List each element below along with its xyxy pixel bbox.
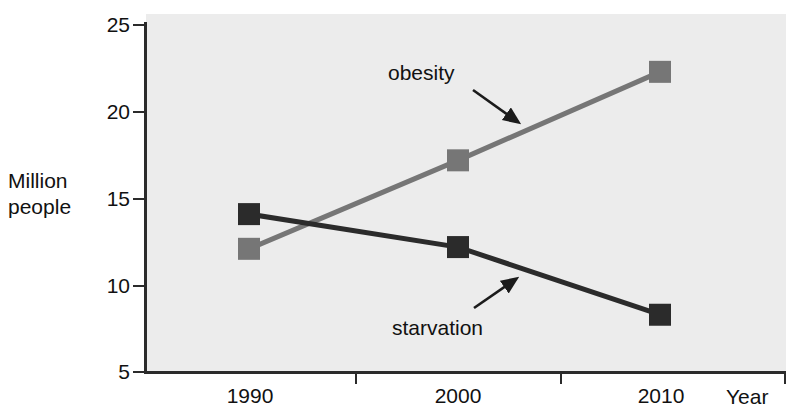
annotation-arrow-obesity xyxy=(473,90,518,122)
series-line-starvation xyxy=(249,214,660,315)
data-point-obesity-1990 xyxy=(238,238,260,260)
data-point-obesity-2000 xyxy=(447,149,469,171)
annotation-arrow-starvation xyxy=(474,279,516,308)
chart-figure: 25 20 15 10 5 1990 2000 2010 Million peo… xyxy=(0,0,786,416)
data-point-starvation-2010 xyxy=(649,304,671,326)
data-point-obesity-2010 xyxy=(649,61,671,83)
series-overlay xyxy=(0,0,786,416)
data-point-starvation-1990 xyxy=(238,203,260,225)
data-point-starvation-2000 xyxy=(447,236,469,258)
